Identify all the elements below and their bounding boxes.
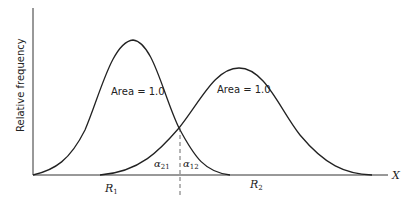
distribution-curve-1	[33, 40, 230, 175]
region-r2-label: R2	[249, 178, 263, 192]
area-label-1: Area = 1.0	[111, 86, 165, 97]
alpha-12-label: α12	[183, 158, 199, 171]
area-label-2: Area = 1.0	[217, 84, 271, 95]
y-axis-label: Relative frequency	[15, 38, 26, 132]
x-axis-label: X	[391, 169, 401, 182]
overlap-diagram: Relative frequency X Area = 1.0 Area = 1…	[0, 0, 419, 203]
alpha-21-label: α21	[154, 158, 170, 171]
region-r1-label: R1	[104, 182, 118, 196]
